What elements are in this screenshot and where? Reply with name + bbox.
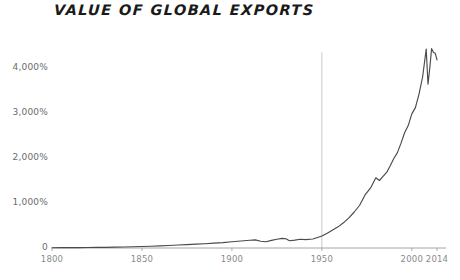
chart-plot-area	[0, 0, 460, 280]
x-axis-tick-label: 1850	[122, 254, 162, 264]
y-axis-tick-label: 4,000%	[12, 62, 48, 72]
data-series-group	[52, 49, 437, 248]
series-line-0	[52, 49, 437, 248]
chart-container: VALUE OF GLOBAL EXPORTS 4,000%3,000%2,00…	[0, 0, 460, 280]
y-axis-tick-label: 2,000%	[12, 152, 48, 162]
x-axis-tick-label: 1950	[302, 254, 342, 264]
y-axis-tick-label: 1,000%	[12, 197, 48, 207]
x-axis-tick-label: 1800	[32, 254, 72, 264]
axis-line-group	[52, 248, 446, 251]
y-axis-tick-label: 0	[42, 242, 48, 252]
x-axis-tick-label: 1900	[212, 254, 252, 264]
x-axis-tick-label: 2014	[417, 254, 457, 264]
y-axis-tick-label: 3,000%	[12, 107, 48, 117]
